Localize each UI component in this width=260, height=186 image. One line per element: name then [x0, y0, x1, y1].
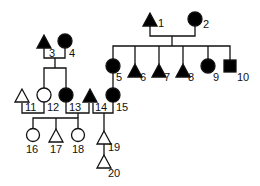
- label-2: 2: [203, 18, 209, 30]
- label-5: 5: [116, 71, 122, 83]
- individual-16: [27, 129, 40, 142]
- individual-13: [59, 88, 73, 102]
- label-16: 16: [26, 143, 38, 155]
- label-3: 3: [49, 47, 55, 59]
- pedigree-diagram: 1 2 3 4 5 6 7 8 9 10 11 12 13 14 15 16 1…: [0, 0, 260, 186]
- individual-10: [224, 60, 236, 72]
- individual-18: [72, 129, 85, 142]
- individual-4: [58, 34, 72, 48]
- label-4: 4: [69, 47, 75, 59]
- label-18: 18: [72, 143, 84, 155]
- individual-12: [37, 88, 51, 102]
- label-9: 9: [213, 71, 219, 83]
- label-12: 12: [47, 101, 59, 113]
- label-6: 6: [140, 71, 146, 83]
- individual-17: [49, 129, 63, 142]
- label-19: 19: [108, 141, 120, 153]
- label-8: 8: [188, 71, 194, 83]
- label-1: 1: [158, 17, 164, 29]
- label-17: 17: [50, 143, 62, 155]
- individual-15: [106, 88, 120, 102]
- label-20: 20: [108, 167, 120, 179]
- individual-1: [143, 13, 157, 26]
- individual-2: [188, 12, 202, 26]
- label-10: 10: [237, 71, 249, 83]
- label-13: 13: [69, 101, 81, 113]
- label-14: 14: [95, 101, 107, 113]
- label-11: 11: [25, 101, 36, 113]
- label-7: 7: [164, 71, 170, 83]
- label-15: 15: [116, 101, 128, 113]
